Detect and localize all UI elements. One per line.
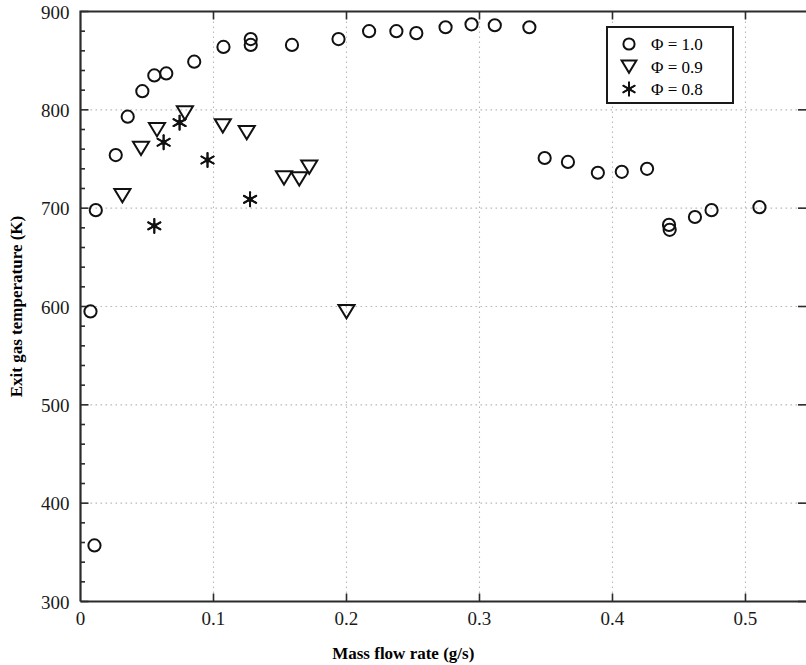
scatter-chart: 00.10.20.30.40.5 300400500600700800900 M… — [0, 0, 806, 665]
x-tick-label: 0.3 — [468, 608, 492, 629]
y-tick-label: 700 — [41, 198, 70, 219]
y-tick-label: 600 — [41, 297, 70, 318]
x-tick-label: 0.1 — [202, 608, 226, 629]
y-tick-label: 500 — [41, 395, 70, 416]
legend-label: Φ = 0.8 — [651, 80, 703, 99]
legend: Φ = 1.0Φ = 0.9Φ = 0.8 — [607, 27, 733, 103]
y-tick-label: 300 — [41, 592, 70, 613]
y-tick-label: 800 — [41, 100, 70, 121]
x-axis-title: Mass flow rate (g/s) — [332, 644, 474, 663]
x-tick-label: 0.5 — [734, 608, 758, 629]
legend-label: Φ = 1.0 — [651, 35, 703, 54]
x-tick-label: 0.4 — [601, 608, 625, 629]
y-tick-label: 900 — [41, 2, 70, 23]
y-tick-label: 400 — [41, 493, 70, 514]
legend-label: Φ = 0.9 — [651, 58, 703, 77]
y-axis-title: Exit gas temperature (K) — [7, 216, 26, 397]
x-tick-label: 0 — [76, 608, 86, 629]
x-tick-label: 0.2 — [335, 608, 359, 629]
